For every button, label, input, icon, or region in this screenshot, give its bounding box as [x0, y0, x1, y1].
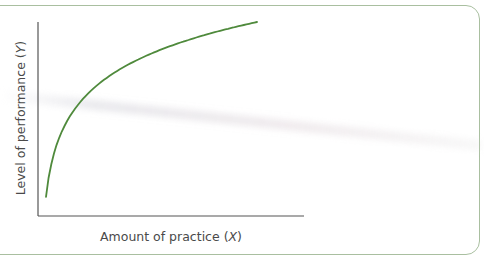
- y-axis-label-text: Level of performance (: [13, 53, 28, 195]
- y-variable: Y: [13, 46, 28, 54]
- learning-curve-line: [46, 22, 257, 197]
- chart-plot: [0, 0, 484, 263]
- x-axis-label-close: ): [237, 229, 242, 244]
- y-axis-label: Level of performance (Y): [13, 41, 28, 195]
- y-axis-label-close: ): [13, 41, 28, 46]
- x-axis-label-text: Amount of practice (: [100, 229, 229, 244]
- x-variable: X: [229, 229, 238, 244]
- x-axis-label: Amount of practice (X): [100, 229, 242, 244]
